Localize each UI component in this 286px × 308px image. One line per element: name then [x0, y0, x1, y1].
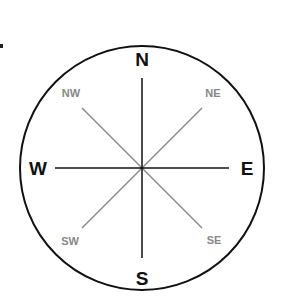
stray-mark — [0, 44, 3, 48]
label-north: N — [135, 49, 149, 70]
label-east: E — [241, 158, 254, 179]
label-southwest: SW — [61, 235, 79, 247]
label-south: S — [136, 268, 149, 289]
label-southeast: SE — [207, 234, 222, 246]
label-northeast: NE — [205, 87, 220, 99]
label-west: W — [29, 158, 47, 179]
label-northwest: NW — [62, 87, 81, 99]
compass-diagram: N S W E NW NE SW SE — [0, 0, 286, 308]
